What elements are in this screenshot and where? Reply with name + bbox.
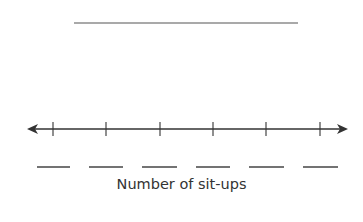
- axis-label: Number of sit-ups: [0, 176, 363, 192]
- number-line-axis: [27, 124, 348, 134]
